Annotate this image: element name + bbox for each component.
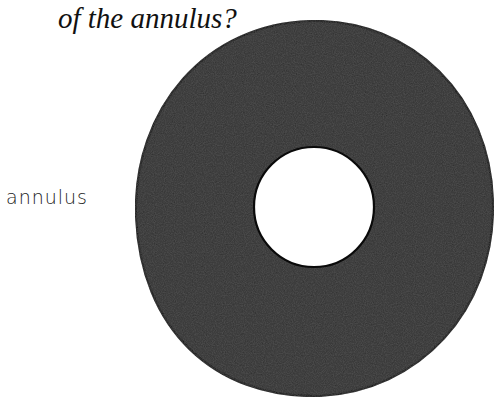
- annulus-hole: [254, 147, 374, 267]
- annulus-label: annulus: [6, 184, 88, 210]
